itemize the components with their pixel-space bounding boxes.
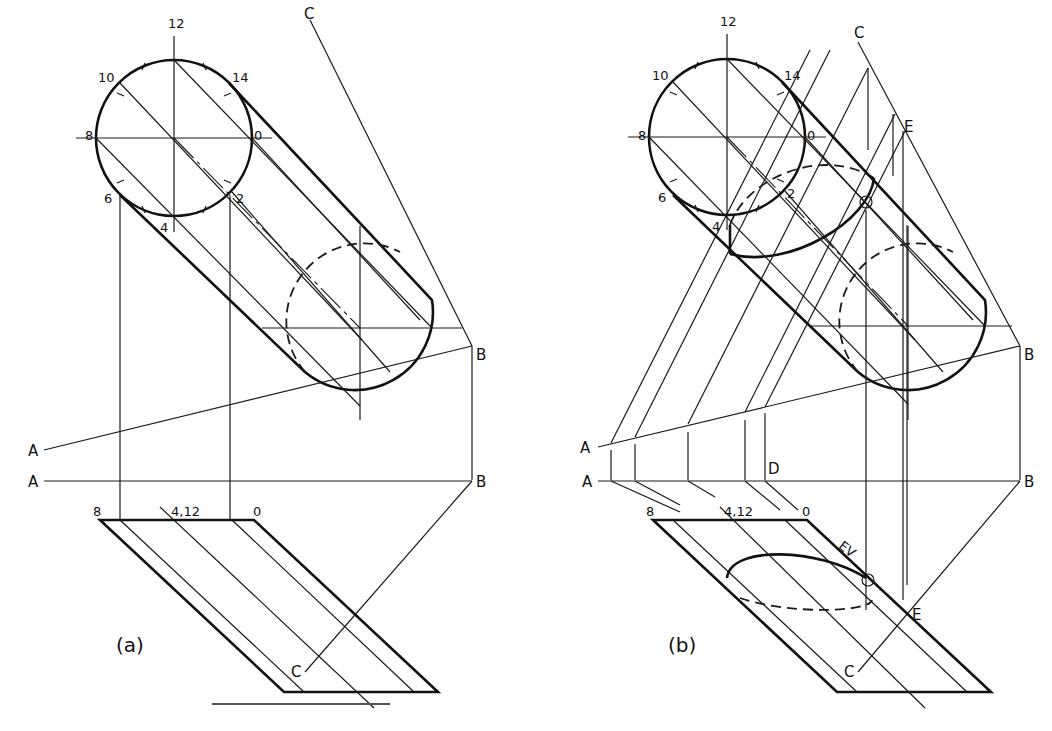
label-a-upper: A <box>28 442 39 460</box>
plan-label-0-b: 0 <box>802 504 810 519</box>
label-2-b: 2 <box>787 186 795 201</box>
label-ev: EV <box>836 538 859 560</box>
label-a-upper-b: A <box>580 439 591 457</box>
descriptive-geometry-figure: 12 10 14 8 0 6 2 4 C B A A B C 8 4,12 0 … <box>0 0 1052 731</box>
label-6-b: 6 <box>658 190 666 205</box>
label-2: 2 <box>236 191 244 206</box>
label-0: 0 <box>254 128 262 143</box>
plane-edge-cb-b <box>858 42 1020 346</box>
label-12-b: 12 <box>720 14 737 29</box>
label-e-bottom: E <box>912 606 921 624</box>
label-14-b: 14 <box>784 68 801 83</box>
plan-projectors-b <box>611 481 798 512</box>
cylinder-axis-b <box>727 137 908 326</box>
plan-label-0: 0 <box>253 504 261 519</box>
plane-edge-cb <box>310 20 472 346</box>
plan-label-8: 8 <box>93 504 101 519</box>
caption-a: (a) <box>116 633 144 657</box>
panel-a: 12 10 14 8 0 6 2 4 C B A A B C 8 4,12 0 … <box>28 5 486 708</box>
plan-label-4-12: 4,12 <box>171 504 200 519</box>
label-c-top-b: C <box>854 24 864 42</box>
cylinder-outline-b <box>673 82 986 390</box>
label-12: 12 <box>168 16 185 31</box>
label-4-b: 4 <box>712 219 720 234</box>
label-14: 14 <box>232 70 249 85</box>
plan-label-8-b: 8 <box>646 504 654 519</box>
label-c-top: C <box>304 5 314 23</box>
label-8: 8 <box>85 128 93 143</box>
plane-edge-ab <box>44 346 472 450</box>
label-10-b: 10 <box>652 68 669 83</box>
label-a-lower-b: A <box>582 473 593 491</box>
plan-section-ellipse <box>727 554 866 578</box>
label-10: 10 <box>98 70 115 85</box>
label-b-upper-b: B <box>1024 346 1034 364</box>
label-b-upper: B <box>476 346 486 364</box>
cylinder-outline <box>120 83 433 390</box>
label-d: D <box>768 460 780 478</box>
line-b-c <box>305 481 472 672</box>
label-4: 4 <box>160 220 168 235</box>
label-b-lower: B <box>476 473 486 491</box>
label-b-lower-b: B <box>1024 473 1034 491</box>
label-0-b: 0 <box>807 128 815 143</box>
cylinder-element-lines <box>96 60 432 406</box>
label-a-lower: A <box>28 473 39 491</box>
plan-label-4-12-b: 4,12 <box>724 504 753 519</box>
hidden-end-arc-b <box>839 243 953 372</box>
panel-b: 12 10 14 8 0 6 2 4 C E B A A D B E C EV … <box>580 14 1034 708</box>
vertical-projectors-b <box>866 68 1020 610</box>
label-c-bottom: C <box>291 663 301 681</box>
plane-edge-ab-b <box>598 346 1020 447</box>
label-c-bottom-b: C <box>844 663 854 681</box>
caption-b: (b) <box>668 633 696 657</box>
section-ellipse-visible <box>730 178 874 257</box>
hidden-end-arc <box>286 243 400 372</box>
label-6: 6 <box>104 191 112 206</box>
label-8-b: 8 <box>638 128 646 143</box>
label-e-top: E <box>904 118 913 136</box>
cylinder-axis <box>174 138 360 328</box>
plan-section-ellipse-hidden <box>740 598 872 610</box>
